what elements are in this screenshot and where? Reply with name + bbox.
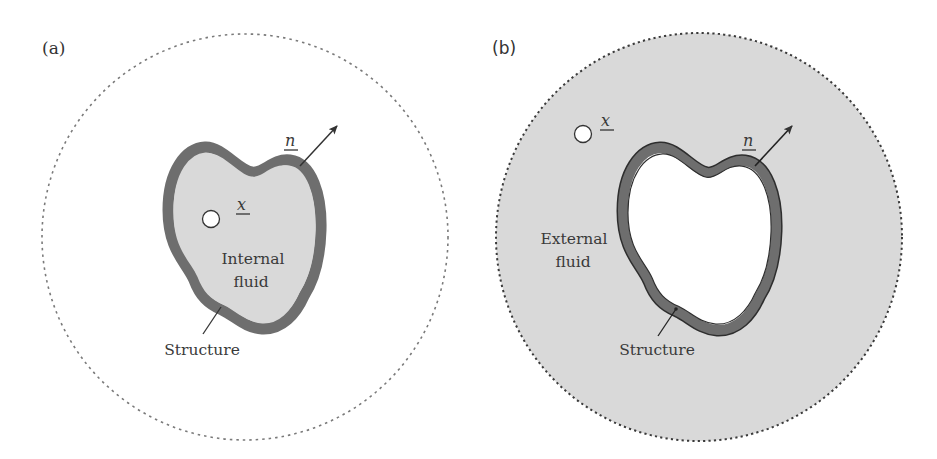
panel-b-structure-pointer-dot	[674, 307, 678, 311]
panel-b-structure-label: Structure	[619, 341, 695, 359]
panel-b: (b) n x External fluid Structure	[492, 33, 902, 441]
panel-a-structure-label: Structure	[164, 341, 240, 359]
panel-b-fluid-label-line2: fluid	[555, 253, 590, 271]
panel-a-normal-label: n	[285, 131, 295, 150]
panel-a-point-label: x	[237, 195, 246, 214]
panel-a: (a) n x Internal fluid Structure	[42, 34, 448, 440]
panel-a-fluid-label-line1: Internal	[221, 250, 284, 268]
panel-b-point-icon	[575, 126, 592, 143]
panel-b-point-label: x	[601, 111, 610, 130]
panel-b-tag: (b)	[492, 38, 516, 58]
figure-canvas: (a) n x Internal fluid Structure (b) n	[0, 0, 937, 459]
panel-a-tag: (a)	[42, 38, 65, 58]
panel-b-normal-label: n	[743, 131, 753, 150]
panel-a-fluid-label-line2: fluid	[233, 273, 268, 291]
panel-a-point-icon	[203, 211, 220, 228]
panel-b-fluid-label-line1: External	[540, 230, 607, 248]
